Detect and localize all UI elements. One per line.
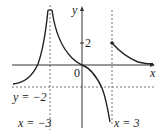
asymptote-label-y-minus-2: y = −2 bbox=[12, 90, 47, 104]
function-graph: y x 0 2 y = −2 x = −3 x = 3 bbox=[0, 0, 163, 135]
curve-middle-branch bbox=[52, 10, 110, 122]
tick-label-2: 2 bbox=[85, 36, 91, 50]
filled-point-3-2 bbox=[110, 41, 114, 45]
curve-end-point bbox=[151, 63, 153, 65]
curve-right-branch bbox=[112, 43, 152, 64]
origin-label: 0 bbox=[74, 66, 80, 80]
y-axis-arrow-icon bbox=[80, 6, 84, 11]
asymptote-label-x-minus-3: x = −3 bbox=[17, 116, 52, 130]
curve-left-branch bbox=[13, 10, 48, 84]
x-axis-label: x bbox=[149, 66, 156, 80]
y-axis-label: y bbox=[71, 3, 78, 17]
asymptote-label-x-3: x = 3 bbox=[113, 116, 139, 130]
